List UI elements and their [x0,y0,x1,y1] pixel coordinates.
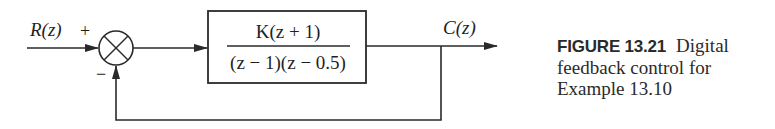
figure-label: FIGURE 13.21 [557,37,666,56]
summing-junction [99,31,133,65]
plus-sign: + [80,21,90,41]
block-denominator: (z − 1)(z − 0.5) [230,52,346,74]
block-numerator: K(z + 1) [256,21,321,43]
caption-line-2: feedback control for [557,57,772,78]
caption-line-3: Example 13.10 [557,78,772,99]
minus-sign: − [96,64,106,84]
caption-line-1: FIGURE 13.21Digital [557,35,772,57]
caption-text-1: Digital [676,35,729,56]
figure-caption: FIGURE 13.21Digital feedback control for… [557,35,772,99]
input-label: R(z) [29,19,62,41]
output-label: C(z) [443,17,476,39]
